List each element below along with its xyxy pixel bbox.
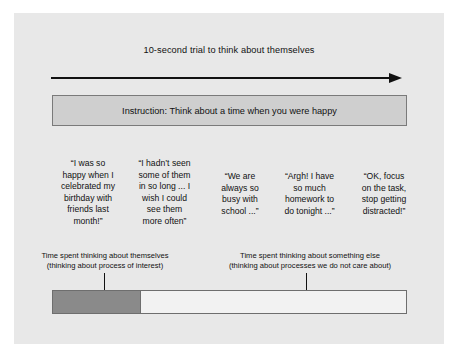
timeline-caption: 10-second trial to think about themselve… [14,45,444,55]
quote-item: “I was so happy when I celebrated my bir… [52,158,124,228]
proportion-bar [52,290,407,314]
quote-item: “We are always so busy with school ...” [209,158,271,217]
annotation-arrow-left-shaft [104,273,105,291]
timeline-arrow-head [389,73,402,83]
timeline-arrow-icon [51,73,409,85]
timeline-arrow-shaft [51,77,391,79]
proportion-bar-filled-segment [53,291,141,313]
quote-item: “Argh! I have so much homework to do ton… [274,158,346,217]
annotation-arrow-right-shaft [306,273,307,291]
instruction-text: Instruction: Think about a time when you… [122,106,337,116]
instruction-box: Instruction: Think about a time when you… [52,95,407,126]
figure-panel: 10-second trial to think about themselve… [14,13,444,344]
quote-item: “I hadn’t seen some of them in so long .… [127,158,203,228]
annotation-label-other-focus: Time spent thinking about something else… [204,251,416,271]
proportion-bar-empty-segment [141,291,406,313]
quote-row: “I was so happy when I celebrated my bir… [52,158,420,228]
quote-item: “OK, focus on the task, stop getting dis… [348,158,420,217]
annotation-label-self-focus: Time spent thinking about themselves (th… [30,251,180,271]
